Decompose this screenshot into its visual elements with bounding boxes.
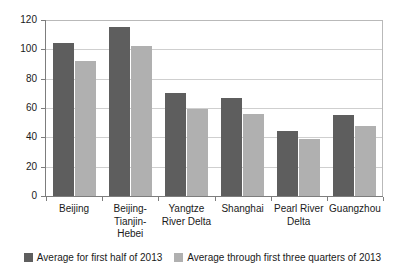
legend-item[interactable]: Average for first half of 2013	[24, 252, 162, 263]
x-axis-label-line: River Delta	[158, 216, 214, 229]
bar	[187, 109, 208, 196]
x-axis-label: Guangzhou	[327, 203, 383, 216]
y-tick-label: 60	[0, 103, 37, 113]
y-tick-label: 20	[0, 162, 37, 172]
x-axis-label: Pearl RiverDelta	[271, 203, 327, 228]
y-tick-label: 80	[0, 74, 37, 84]
y-tick-label: 0	[0, 191, 37, 201]
x-axis-label-line: Beijing	[46, 203, 102, 216]
x-tick-mark	[215, 197, 216, 201]
x-axis-label: Beijing-Tianjin-Hebei	[102, 203, 158, 241]
x-axis-label-line: Shanghai	[215, 203, 271, 216]
x-axis-label-line: Tianjin-	[102, 216, 158, 229]
bar	[299, 139, 320, 196]
x-axis-label-line: Pearl River	[271, 203, 327, 216]
legend-swatch-icon	[174, 253, 183, 262]
x-axis-label: Shanghai	[215, 203, 271, 216]
y-tick-label: 120	[0, 15, 37, 25]
legend-swatch-icon	[24, 253, 33, 262]
x-axis-label-line: Guangzhou	[327, 203, 383, 216]
x-axis-label: Beijing	[46, 203, 102, 216]
y-tick-label: 100	[0, 44, 37, 54]
x-axis-label-line: Beijing-	[102, 203, 158, 216]
bar	[109, 27, 130, 196]
x-axis-label-line: Delta	[271, 216, 327, 229]
x-tick-mark	[46, 197, 47, 201]
bar-chart: 020406080100120 BeijingBeijing-Tianjin-H…	[0, 0, 405, 272]
x-tick-mark	[383, 197, 384, 201]
bar	[333, 115, 354, 196]
bar	[221, 98, 242, 196]
x-axis-label: YangtzeRiver Delta	[158, 203, 214, 228]
y-tick-label: 40	[0, 132, 37, 142]
bar	[355, 126, 376, 196]
x-tick-mark	[271, 197, 272, 201]
x-tick-mark	[102, 197, 103, 201]
chart-legend: Average for first half of 2013Average th…	[0, 252, 405, 263]
bar	[243, 114, 264, 196]
x-tick-mark	[158, 197, 159, 201]
legend-label: Average for first half of 2013	[37, 252, 162, 263]
y-axis-line	[45, 20, 46, 197]
legend-item[interactable]: Average through first three quarters of …	[174, 252, 381, 263]
bar	[75, 61, 96, 196]
bar	[165, 93, 186, 196]
bar	[131, 46, 152, 196]
bar	[53, 43, 74, 196]
plot-wrapper: 020406080100120	[0, 0, 405, 200]
x-axis-label-line: Hebei	[102, 228, 158, 241]
x-axis-label-line: Yangtze	[158, 203, 214, 216]
x-tick-mark	[327, 197, 328, 201]
legend-label: Average through first three quarters of …	[187, 252, 381, 263]
bar	[277, 131, 298, 196]
